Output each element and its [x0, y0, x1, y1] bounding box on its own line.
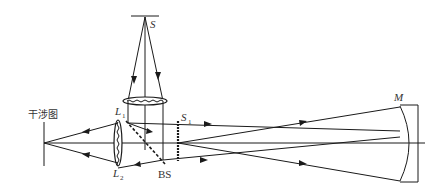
mirror-label: M — [393, 91, 404, 103]
arrow-right-icon — [200, 157, 208, 163]
ray-bottom-out — [178, 143, 400, 181]
arrow-left-icon — [82, 128, 90, 134]
arrow-left-icon — [82, 152, 90, 158]
lens-l2-subscript: 2 — [120, 174, 124, 182]
arrow-down-icon — [146, 128, 153, 134]
arrow-right-icon — [299, 120, 307, 126]
ray-bottom-return — [163, 137, 400, 160]
arrow-left-icon — [134, 161, 141, 167]
source-label: S — [150, 18, 156, 30]
ray-top-return — [128, 123, 400, 131]
ray-screen-top — [44, 123, 118, 143]
ray-bs-to-l2 — [128, 123, 150, 131]
source-ray-left — [128, 17, 145, 101]
lens-l1-subscript: 1 — [122, 112, 126, 120]
slit-s1-label: S — [181, 111, 187, 123]
lens-l1-label: L — [114, 105, 121, 117]
slit-s1: S 1 — [178, 111, 192, 161]
lens-l1: L 1 — [114, 97, 167, 120]
mirror-m: M — [393, 91, 418, 182]
arrow-right-icon — [204, 121, 212, 127]
lens-l2: L 2 — [112, 120, 124, 182]
lens-l2-label: L — [112, 167, 119, 179]
lens-l1-body — [123, 97, 167, 105]
arrow-down-icon — [155, 72, 161, 80]
beam-splitter-label: BS — [158, 168, 171, 180]
optical-diagram: S L 1 BS S 1 — [0, 0, 443, 196]
interferogram-label: 干涉图 — [28, 108, 58, 120]
ray-screen-bottom — [44, 143, 118, 163]
interferogram-screen: 干涉图 — [28, 108, 58, 166]
lens-l2-body — [114, 120, 122, 166]
